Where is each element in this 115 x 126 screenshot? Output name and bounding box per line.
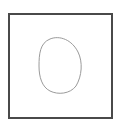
blob-shape bbox=[0, 0, 115, 126]
